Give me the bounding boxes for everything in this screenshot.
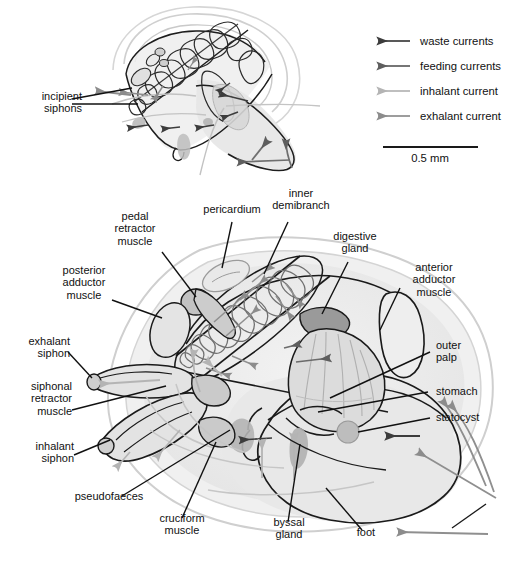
- statocyst-shape: [337, 421, 359, 443]
- legend-item-exhalant-current: exhalant current: [420, 110, 501, 122]
- label-foot: foot: [348, 526, 384, 538]
- label-anterior-adductor-muscle: anterior adductor muscle: [396, 261, 472, 298]
- label-byssal-gland: byssal gland: [256, 516, 322, 541]
- legend-item-inhalant-current: inhalant current: [420, 85, 498, 97]
- legend-item-feeding-currents: feeding currents: [420, 60, 501, 72]
- label-cruciform-muscle: cruciform muscle: [138, 512, 226, 537]
- label-siphonal-retractor-muscle: siphonal retractor muscle: [2, 380, 72, 417]
- label-posterior-adductor-muscle: posterior adductor muscle: [46, 264, 122, 301]
- figure-canvas: incipient siphons pedal retractor muscle…: [0, 0, 511, 574]
- scale-bar-label: 0.5 mm: [365, 152, 495, 164]
- label-inhalant-siphon: inhalant siphon: [8, 440, 74, 465]
- label-pseudofaeces: pseudofaeces: [64, 490, 154, 502]
- label-pedal-retractor-muscle: pedal retractor muscle: [98, 210, 172, 247]
- label-stomach: stomach: [436, 385, 504, 397]
- label-digestive-gland: digestive gland: [316, 230, 394, 255]
- label-exhalant-siphon: exhalant siphon: [6, 335, 70, 360]
- label-incipient-siphons: incipient siphons: [6, 90, 82, 115]
- legend-item-waste-currents: waste currents: [420, 35, 493, 47]
- label-outer-palp: outer palp: [436, 339, 498, 364]
- top-diagram: [72, 7, 320, 175]
- label-statocyst: statocyst: [436, 411, 508, 423]
- label-inner-demibranch: inner demibranch: [258, 187, 344, 212]
